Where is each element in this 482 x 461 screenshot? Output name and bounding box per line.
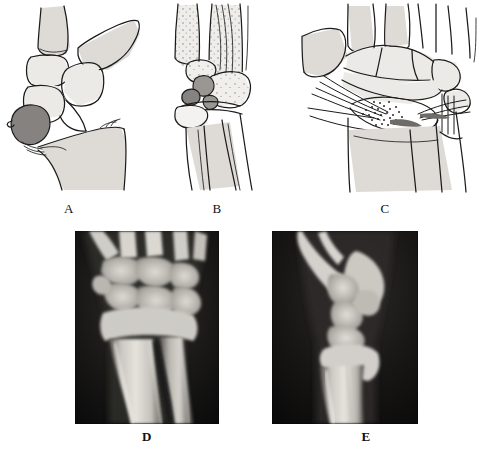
panel-d-svg (75, 231, 219, 424)
panel-c-line-drawing (290, 0, 482, 196)
panel-c-caption: C (370, 201, 400, 217)
panel-d-caption: D (132, 429, 162, 445)
panel-a-svg (0, 0, 150, 196)
panel-a-line-drawing (0, 0, 150, 196)
figure-plate: A (0, 0, 482, 461)
panel-b-svg (160, 0, 280, 196)
panel-b-caption: B (202, 201, 232, 217)
panel-e-radiograph (272, 231, 418, 424)
panel-e-svg (272, 231, 418, 424)
panel-e-caption: E (351, 429, 381, 445)
panel-a-caption: A (54, 201, 84, 217)
panel-b-line-drawing (160, 0, 280, 196)
panel-d-radiograph (75, 231, 219, 424)
panel-c-svg (290, 0, 482, 196)
